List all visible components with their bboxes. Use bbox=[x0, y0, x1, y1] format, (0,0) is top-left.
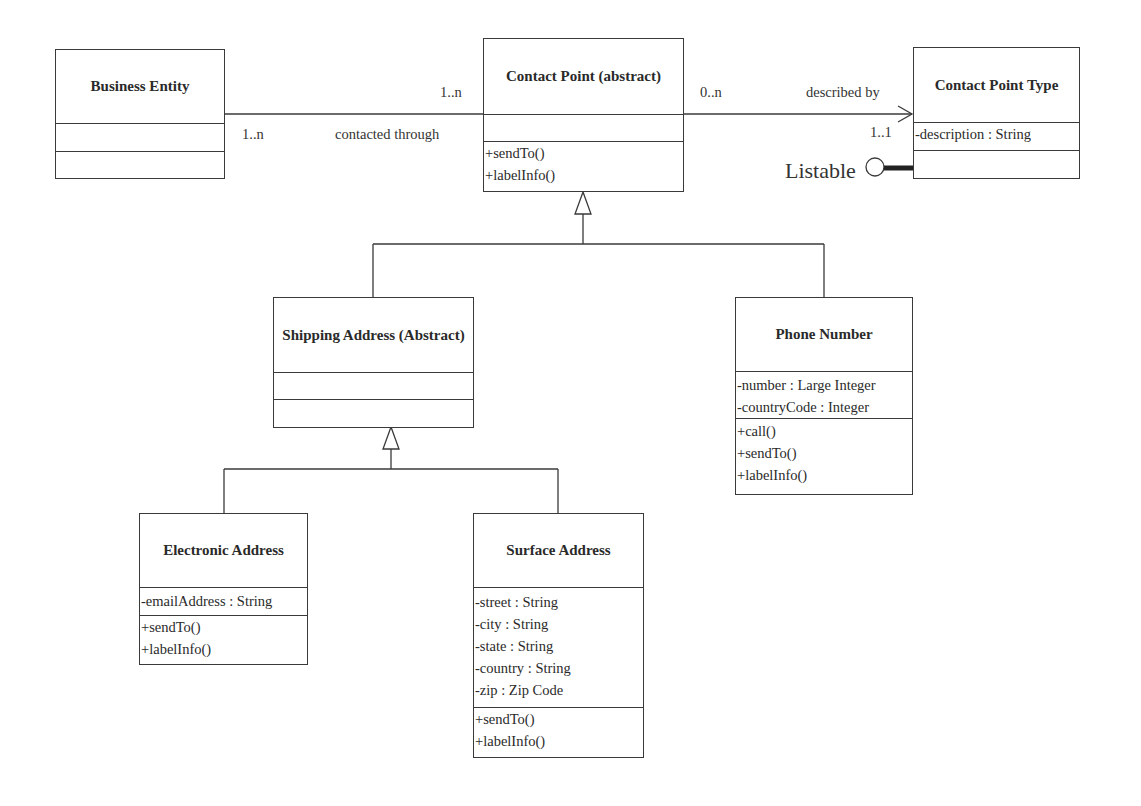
listable-interface-icon bbox=[866, 158, 913, 176]
class-name: Business Entity bbox=[56, 50, 224, 124]
operations-compartment: +sendTo() +labelInfo() bbox=[140, 616, 307, 660]
attribute: -street : String bbox=[475, 591, 643, 613]
class-name: Contact Point Type bbox=[914, 48, 1079, 123]
operation: +sendTo() bbox=[737, 442, 912, 464]
attributes-compartment: -emailAddress : String bbox=[140, 588, 307, 616]
operations-compartment: +sendTo() +labelInfo() bbox=[474, 708, 643, 752]
class-business-entity[interactable]: Business Entity bbox=[55, 49, 225, 179]
generalization-triangle-icon bbox=[383, 427, 399, 449]
attribute: -number : Large Integer bbox=[737, 374, 912, 396]
class-name: Shipping Address (Abstract) bbox=[274, 298, 473, 373]
operation: +sendTo() bbox=[141, 616, 307, 638]
association-label: described by bbox=[806, 84, 880, 101]
attributes-compartment bbox=[274, 373, 473, 400]
attribute: -city : String bbox=[475, 613, 643, 635]
operations-compartment bbox=[914, 151, 1079, 178]
attributes-compartment: -description : String bbox=[914, 123, 1079, 151]
class-contact-point-type[interactable]: Contact Point Type -description : String bbox=[913, 47, 1080, 179]
class-shipping-address[interactable]: Shipping Address (Abstract) bbox=[273, 297, 474, 428]
class-contact-point[interactable]: Contact Point (abstract) +sendTo() +labe… bbox=[483, 38, 684, 192]
operations-compartment bbox=[274, 400, 473, 427]
generalization-triangle-icon bbox=[575, 192, 591, 214]
attribute: -state : String bbox=[475, 635, 643, 657]
class-electronic-address[interactable]: Electronic Address -emailAddress : Strin… bbox=[139, 513, 308, 665]
class-surface-address[interactable]: Surface Address -street : String -city :… bbox=[473, 513, 644, 758]
operation: +call() bbox=[737, 420, 912, 442]
interface-label: Listable bbox=[785, 158, 856, 184]
operation: +labelInfo() bbox=[485, 164, 683, 186]
class-phone-number[interactable]: Phone Number -number : Large Integer -co… bbox=[735, 297, 913, 495]
attribute: -countryCode : Integer bbox=[737, 396, 912, 418]
class-name: Electronic Address bbox=[140, 514, 307, 588]
attribute: -emailAddress : String bbox=[141, 590, 307, 612]
operations-compartment bbox=[56, 152, 224, 178]
multiplicity-label: 0..n bbox=[700, 84, 722, 101]
operation: +labelInfo() bbox=[475, 730, 643, 752]
attribute: -description : String bbox=[915, 123, 1079, 145]
operations-compartment: +sendTo() +labelInfo() bbox=[484, 142, 683, 186]
operation: +labelInfo() bbox=[141, 638, 307, 660]
multiplicity-label: 1..1 bbox=[870, 124, 892, 141]
attributes-compartment: -street : String -city : String -state :… bbox=[474, 588, 643, 708]
class-name: Surface Address bbox=[474, 514, 643, 588]
class-name: Contact Point (abstract) bbox=[484, 39, 683, 115]
attribute: -country : String bbox=[475, 657, 643, 679]
association-label: contacted through bbox=[335, 126, 439, 143]
attributes-compartment bbox=[484, 115, 683, 142]
operation: +sendTo() bbox=[475, 708, 643, 730]
operation: +sendTo() bbox=[485, 142, 683, 164]
attribute: -zip : Zip Code bbox=[475, 679, 643, 701]
attributes-compartment: -number : Large Integer -countryCode : I… bbox=[736, 372, 912, 419]
attributes-compartment bbox=[56, 124, 224, 152]
multiplicity-label: 1..n bbox=[440, 84, 462, 101]
class-name: Phone Number bbox=[736, 298, 912, 372]
multiplicity-label: 1..n bbox=[242, 126, 264, 143]
operations-compartment: +call() +sendTo() +labelInfo() bbox=[736, 419, 912, 486]
operation: +labelInfo() bbox=[737, 464, 912, 486]
